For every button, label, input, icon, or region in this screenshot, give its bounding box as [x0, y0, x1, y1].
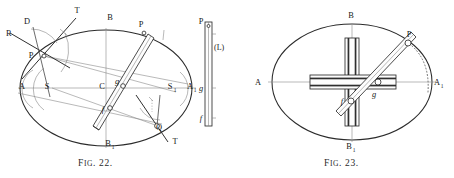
fig23-point-P	[405, 40, 411, 46]
fig22-label-B1-sub: 1	[112, 144, 115, 150]
fig22-angle-arc-Q	[140, 108, 160, 120]
fig22-line-Q-vert	[157, 95, 160, 126]
fig-22-group: T D R P B P A S C g f S 1 A 1 Q T B 1 P …	[6, 6, 225, 150]
fig22-label-A1: A	[187, 82, 193, 91]
fig22-label-S1-group: S 1	[168, 82, 177, 93]
fig22-tick-near-Q	[149, 97, 153, 101]
fig22-scale-point-P	[207, 25, 210, 28]
fig23-guide-cross	[310, 38, 396, 126]
fig23-label-B-top: B	[348, 11, 354, 20]
fig22-tick-right-of-P	[163, 30, 164, 40]
fig23-label-B1-sub: 1	[353, 147, 356, 153]
fig22-label-D: D	[24, 17, 30, 26]
fig22-label-B-top: B	[107, 13, 113, 22]
fig-23-caption: FIG. 23.	[324, 158, 359, 168]
fig22-label-R: R	[6, 29, 12, 38]
fig-23-caption-suffix: . 23.	[339, 158, 359, 168]
fig23-locus-dotted-arc	[412, 46, 428, 92]
fig23-label-A1-group: A 1	[434, 78, 444, 89]
fig23-label-g: g	[372, 90, 376, 99]
fig22-point-P-upper	[142, 31, 146, 35]
fig23-label-P: P	[407, 30, 412, 39]
fig22-label-A-left: A	[19, 82, 25, 91]
fig23-label-A1-sub: 1	[441, 83, 444, 89]
fig23-pin-f	[348, 98, 354, 104]
fig23-label-A-left: A	[255, 78, 261, 87]
fig22-pin-f	[108, 106, 113, 111]
fig22-scale-L	[205, 22, 216, 126]
fig22-point-P-left	[42, 54, 46, 58]
fig22-tangent-T-P	[22, 18, 76, 79]
fig22-label-S1: S	[168, 82, 173, 91]
fig23-label-B1: B	[346, 142, 352, 151]
fig23-guide-slot-horizontal-top	[310, 78, 396, 80]
fig-22-caption-smallcaps: IG	[84, 159, 93, 168]
fig23-label-B1-group: B 1	[346, 142, 355, 153]
fig-22-caption-suffix: . 22.	[93, 158, 113, 168]
fig22-label-g: g	[115, 77, 119, 86]
fig22-label-g-scale: g	[199, 84, 203, 93]
fig22-label-B1-group: B 1	[105, 139, 114, 150]
fig-23-group: B P A A 1 g f B 1	[255, 11, 444, 153]
fig22-label-T-upper: T	[74, 6, 79, 15]
fig22-label-P-upper: P	[139, 20, 144, 29]
fig22-arc-near-S	[33, 68, 44, 110]
fig22-label-C-centre: C	[99, 82, 105, 91]
fig22-pin-g	[121, 84, 126, 89]
fig22-label-f-scale: f	[200, 114, 204, 123]
fig23-guide-slot-horizontal-bottom	[310, 85, 396, 87]
figures-drawing: .ell { fill:none; stroke:#2b2b2b; stroke…	[0, 0, 454, 178]
fig23-label-A1: A	[434, 78, 440, 87]
fig22-label-S-left: S	[45, 82, 50, 91]
fig22-label-P-scale: P	[199, 17, 204, 26]
fig22-label-T-lower: T	[172, 137, 177, 146]
fig22-label-B1: B	[105, 139, 111, 148]
fig-23-caption-smallcaps: IG	[330, 159, 339, 168]
fig22-label-S1-sub: 1	[174, 87, 177, 93]
fig22-label-A1-sub: 1	[194, 87, 197, 93]
fig23-pin-g	[375, 79, 381, 85]
fig-22-caption: FIG. 22.	[78, 158, 113, 168]
fig22-label-Q: Q	[156, 123, 162, 132]
fig22-chord-P-S1	[44, 56, 176, 92]
fig23-guide-bar-horizontal	[310, 75, 396, 89]
figure-plate: .ell { fill:none; stroke:#2b2b2b; stroke…	[0, 0, 454, 178]
fig22-label-P-left: P	[29, 51, 34, 60]
fig22-label-L-scale: (L)	[214, 43, 225, 52]
